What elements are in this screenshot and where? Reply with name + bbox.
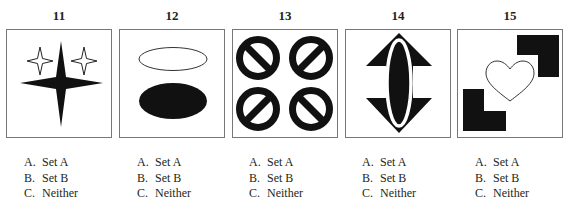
option-letter: C. xyxy=(249,186,267,202)
option-letter: C. xyxy=(24,186,42,202)
option-label: Neither xyxy=(493,186,529,202)
option-label: Set B xyxy=(155,171,181,187)
options-13: A.Set A B.Set B C.Neither xyxy=(249,155,303,202)
option-letter: B. xyxy=(24,171,42,187)
option-label: Neither xyxy=(155,186,191,202)
option-a[interactable]: A.Set A xyxy=(362,155,416,171)
option-label: Set A xyxy=(267,155,293,171)
option-a[interactable]: A.Set A xyxy=(249,155,303,171)
option-label: Set B xyxy=(493,171,519,187)
options-14: A.Set A B.Set B C.Neither xyxy=(362,155,416,202)
figure-box-13 xyxy=(232,29,338,138)
option-a[interactable]: A.Set A xyxy=(475,155,529,171)
option-letter: A. xyxy=(24,155,42,171)
option-a[interactable]: A.Set A xyxy=(137,155,191,171)
option-letter: C. xyxy=(362,186,380,202)
figure-box-15 xyxy=(457,29,563,138)
question-number-15: 15 xyxy=(457,8,563,24)
option-label: Neither xyxy=(380,186,416,202)
figure-box-11 xyxy=(6,29,112,138)
option-b[interactable]: B.Set B xyxy=(24,171,78,187)
option-c[interactable]: C.Neither xyxy=(137,186,191,202)
option-label: Set A xyxy=(42,155,68,171)
option-b[interactable]: B.Set B xyxy=(475,171,529,187)
option-label: Neither xyxy=(42,186,78,202)
option-letter: A. xyxy=(249,155,267,171)
option-letter: A. xyxy=(362,155,380,171)
option-letter: B. xyxy=(137,171,155,187)
option-letter: A. xyxy=(475,155,493,171)
question-number-11: 11 xyxy=(6,8,112,24)
option-label: Set B xyxy=(380,171,406,187)
figure-box-14 xyxy=(345,29,451,138)
question-number-12: 12 xyxy=(119,8,225,24)
option-label: Set A xyxy=(380,155,406,171)
option-letter: B. xyxy=(475,171,493,187)
question-number-14: 14 xyxy=(345,8,451,24)
option-label: Set A xyxy=(155,155,181,171)
option-letter: B. xyxy=(362,171,380,187)
option-b[interactable]: B.Set B xyxy=(249,171,303,187)
option-label: Neither xyxy=(267,186,303,202)
option-label: Set B xyxy=(42,171,68,187)
question-number-13: 13 xyxy=(232,8,338,24)
option-c[interactable]: C.Neither xyxy=(24,186,78,202)
option-a[interactable]: A.Set A xyxy=(24,155,78,171)
option-label: Set A xyxy=(493,155,519,171)
options-15: A.Set A B.Set B C.Neither xyxy=(475,155,529,202)
option-letter: C. xyxy=(475,186,493,202)
option-letter: A. xyxy=(137,155,155,171)
option-c[interactable]: C.Neither xyxy=(475,186,529,202)
figure-box-12 xyxy=(119,29,225,138)
option-c[interactable]: C.Neither xyxy=(362,186,416,202)
option-letter: C. xyxy=(137,186,155,202)
option-b[interactable]: B.Set B xyxy=(362,171,416,187)
option-label: Set B xyxy=(267,171,293,187)
options-11: A.Set A B.Set B C.Neither xyxy=(24,155,78,202)
option-c[interactable]: C.Neither xyxy=(249,186,303,202)
options-12: A.Set A B.Set B C.Neither xyxy=(137,155,191,202)
option-letter: B. xyxy=(249,171,267,187)
option-b[interactable]: B.Set B xyxy=(137,171,191,187)
